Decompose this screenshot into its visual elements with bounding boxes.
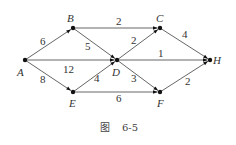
edge-F-H: [160, 61, 208, 92]
node-E: [71, 90, 75, 94]
edge-weight-D-F: 3: [131, 72, 137, 84]
node-label-H: H: [212, 54, 222, 66]
edge-A-B: [25, 29, 71, 60]
node-label-F: F: [156, 97, 164, 109]
edge-weight-E-D: 4: [94, 72, 100, 84]
node-D: [115, 58, 119, 62]
node-F: [158, 90, 162, 94]
caption-figure: 图: [100, 122, 110, 133]
edge-D-F: [117, 60, 158, 91]
edge-weight-F-H: 2: [185, 75, 191, 87]
caption-number: 6-5: [122, 122, 138, 133]
edge-weight-D-H: 1: [158, 47, 164, 59]
edge-D-C: [117, 29, 158, 60]
node-C: [158, 26, 162, 30]
node-B: [71, 26, 75, 30]
directed-graph: 6128252143426 ABCDEFH 图 6-5: [0, 0, 236, 145]
edge-weight-A-B: 6: [40, 35, 46, 47]
edge-weight-B-D: 5: [85, 40, 91, 52]
edge-weight-E-F: 6: [116, 92, 122, 104]
edge-weight-D-C: 2: [131, 34, 137, 46]
node-label-D: D: [111, 66, 120, 78]
node-label-A: A: [16, 66, 24, 78]
edge-weight-A-E: 8: [40, 73, 46, 85]
node-A: [23, 58, 27, 62]
node-label-E: E: [68, 97, 76, 109]
edge-weight-B-C: 2: [116, 15, 122, 27]
node-label-C: C: [156, 12, 164, 24]
edge-weight-A-D: 12: [63, 63, 74, 75]
node-H: [208, 58, 212, 62]
edge-weight-C-H: 4: [182, 28, 188, 40]
edge-B-D: [73, 28, 115, 59]
node-label-B: B: [67, 12, 74, 24]
